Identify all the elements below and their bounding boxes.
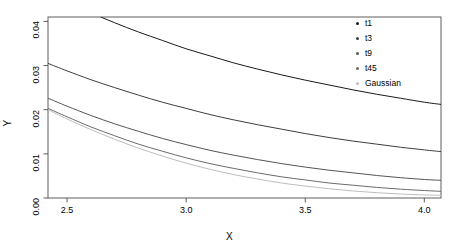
legend-label: Gaussian xyxy=(365,79,401,88)
y-tick-label: 0.03 xyxy=(31,66,41,84)
legend-label: t9 xyxy=(365,49,372,58)
y-tick-label: 0.00 xyxy=(31,198,41,216)
y-axis-title: Y xyxy=(2,120,13,127)
y-tick-label: 0.02 xyxy=(31,110,41,128)
y-tick-label: 0.04 xyxy=(31,21,41,39)
legend-marker-icon xyxy=(356,67,359,70)
legend-item-t45: t45 xyxy=(356,61,401,76)
legend-marker-icon xyxy=(356,22,359,25)
legend-item-gaussian: Gaussian xyxy=(356,76,401,91)
legend-label: t45 xyxy=(365,64,377,73)
legend-marker-icon xyxy=(356,82,359,85)
legend-marker-icon xyxy=(356,37,359,40)
legend-item-t9: t9 xyxy=(356,46,401,61)
legend-label: t1 xyxy=(365,19,372,28)
x-tick-label: 3.0 xyxy=(180,205,193,215)
legend-marker-icon xyxy=(356,52,359,55)
x-tick-label: 3.5 xyxy=(299,205,312,215)
chart-legend: t1t3t9t45Gaussian xyxy=(356,16,401,91)
legend-label: t3 xyxy=(365,34,372,43)
legend-item-t3: t3 xyxy=(356,31,401,46)
legend-item-t1: t1 xyxy=(356,16,401,31)
x-tick-label: 4.0 xyxy=(418,205,431,215)
x-axis-title: X xyxy=(0,231,459,242)
x-tick-label: 2.5 xyxy=(61,205,74,215)
chart-figure: 0.000.010.020.030.04 2.53.03.54.0 X Y t1… xyxy=(0,0,459,246)
y-tick-label: 0.01 xyxy=(31,154,41,172)
